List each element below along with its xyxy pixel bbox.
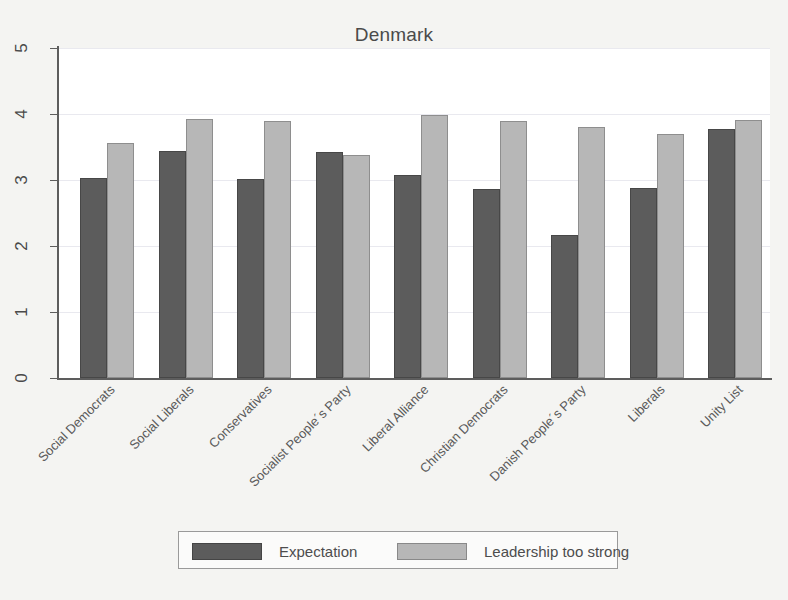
x-axis-label: Social Liberals <box>126 382 196 452</box>
bar <box>237 179 264 378</box>
x-axis-label: Liberal Alliance <box>359 382 431 454</box>
bar <box>316 152 343 378</box>
bar <box>264 121 291 378</box>
bar <box>708 129 735 378</box>
y-axis-tick <box>50 246 58 247</box>
y-axis-tick-label: 2 <box>0 246 44 247</box>
bar <box>735 120 762 378</box>
x-axis-label: Social Democrats <box>35 382 118 465</box>
legend-entry-expectation: Expectation <box>192 541 357 561</box>
bar <box>473 189 500 378</box>
y-axis-line <box>57 46 59 380</box>
legend-label: Leadership too strong <box>484 543 629 560</box>
bar <box>186 119 213 378</box>
x-axis-labels: Social DemocratsSocial LiberalsConservat… <box>0 382 788 512</box>
bar <box>159 151 186 378</box>
y-axis-tick-label: 1 <box>0 312 44 313</box>
x-axis-label: Unity List <box>697 382 745 430</box>
bar <box>578 127 605 378</box>
x-axis-line <box>57 378 772 380</box>
plot-region <box>58 48 770 378</box>
y-axis-tick-label: 4 <box>0 114 44 115</box>
plot-area <box>58 48 770 378</box>
x-axis-label: Conservatives <box>206 382 275 451</box>
legend-swatch-icon <box>192 543 262 560</box>
bar <box>107 143 134 378</box>
y-axis-tick <box>50 312 58 313</box>
y-axis-tick-label: 0 <box>0 378 44 379</box>
legend-swatch-icon <box>397 543 467 560</box>
bar <box>500 121 527 378</box>
legend-label: Expectation <box>279 543 357 560</box>
bar <box>657 134 684 378</box>
bar <box>630 188 657 378</box>
gridline <box>58 48 770 49</box>
gridline <box>58 114 770 115</box>
chart-figure: Denmark 012345 Social DemocratsSocial Li… <box>0 0 788 600</box>
bar <box>421 115 448 378</box>
bar <box>343 155 370 378</box>
bar <box>394 175 421 378</box>
y-axis-tick <box>50 114 58 115</box>
y-axis-tick-label: 5 <box>0 48 44 49</box>
legend-entry-leadership-too-strong: Leadership too strong <box>397 541 629 561</box>
chart-title: Denmark <box>0 24 788 46</box>
chart-legend: Expectation Leadership too strong <box>178 531 618 569</box>
y-axis-tick <box>50 48 58 49</box>
bar <box>80 178 107 378</box>
x-axis-label: Christian Democrats <box>416 382 510 476</box>
y-axis-tick <box>50 378 58 379</box>
y-axis-tick-label: 3 <box>0 180 44 181</box>
x-axis-label: Liberals <box>624 382 667 425</box>
y-axis-tick <box>50 180 58 181</box>
bar <box>551 235 578 378</box>
